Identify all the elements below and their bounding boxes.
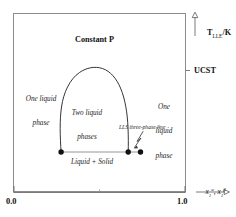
region-label-line-2: phases	[63, 133, 111, 141]
composition-var2-superscript: β	[223, 187, 226, 192]
marker-solid-phase-endpoint	[138, 149, 143, 154]
temperature-axis-arrowhead	[192, 12, 198, 17]
temperature-unit: /K	[222, 28, 231, 37]
x-tick-label-1: 1.0	[177, 197, 187, 206]
phase-diagram-figure: Constant P UCST TLLE/K One liquid phase …	[0, 0, 236, 217]
temperature-subscript: LLE	[213, 33, 223, 39]
region-label-one-liquid-phase-right: One liquid phase	[146, 87, 182, 176]
region-label-two-liquid-phases: Two liquid phases	[63, 93, 111, 158]
x-tick-label-0: 0.0	[6, 197, 16, 206]
region-label-liquid-plus-solid: Liquid + Solid	[62, 158, 122, 166]
marker-beta-phase-endpoint	[126, 149, 131, 154]
lls-three-phase-line-annotation: LLS three-phase line	[119, 124, 165, 130]
region-label-line-1: One liquid	[16, 95, 66, 103]
temperature-axis-label: TLLE/K	[199, 19, 231, 48]
composition-var2-subscript: 1	[221, 193, 224, 198]
composition-axis-label: x1α, x1β	[198, 179, 226, 207]
constant-pressure-label: Constant P	[75, 35, 114, 44]
ucst-label: UCST	[194, 66, 216, 75]
region-label-line-1: One	[146, 103, 182, 111]
annotation-leader-line	[135, 132, 144, 148]
region-label-line-3: phase	[146, 152, 182, 160]
region-label-line-2: phase	[16, 119, 66, 127]
region-label-line-1: Two liquid	[63, 109, 111, 117]
composition-var1-subscript: 1	[209, 193, 212, 198]
region-label-one-liquid-phase-left: One liquid phase	[16, 79, 66, 144]
